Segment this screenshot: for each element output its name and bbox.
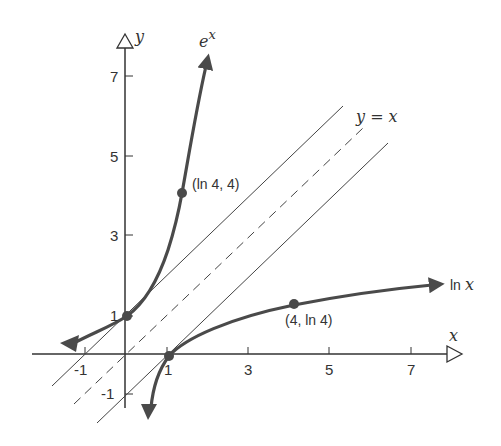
x-axis-arrow-icon — [447, 346, 462, 362]
point-0-1 — [122, 311, 132, 321]
y-tick-5: 5 — [110, 148, 118, 165]
x-axis-label: x — [449, 326, 458, 345]
y-tick-1: 1 — [110, 307, 118, 324]
point-4-ln4 — [289, 299, 299, 309]
y-tick-7: 7 — [110, 68, 118, 85]
y-axis-label: y — [134, 27, 145, 46]
y-equals-x-label: y = x — [355, 107, 398, 126]
point-1-0 — [164, 351, 174, 361]
point-label-4-ln4: (4, ln 4) — [285, 312, 332, 328]
point-ln4-4 — [177, 188, 187, 198]
y-axis — [117, 34, 133, 408]
ln-label: lnx — [450, 275, 474, 294]
x-tick-5: 5 — [325, 361, 333, 378]
x-tick-neg1: -1 — [74, 361, 87, 378]
upper-parallel-line — [52, 106, 343, 386]
lower-parallel-line — [97, 143, 388, 423]
exp-left-arrow-icon — [60, 335, 79, 352]
x-axis — [32, 346, 462, 362]
ln-down-arrow-icon — [141, 404, 157, 420]
y-tick-3: 3 — [110, 227, 118, 244]
x-tick-1: 1 — [164, 361, 172, 378]
x-tick-7: 7 — [407, 361, 415, 378]
function-graph: -1 1 3 5 7 -1 1 3 5 7 x y ex lnx y = x (… — [0, 0, 501, 446]
exp-label: ex — [199, 27, 216, 51]
x-tick-3: 3 — [244, 361, 252, 378]
y-axis-arrow-icon — [117, 34, 133, 48]
point-label-ln4-4: (ln 4, 4) — [192, 176, 239, 192]
y-tick-neg1: -1 — [101, 385, 114, 402]
y-equals-x-dashed-line — [74, 128, 363, 404]
